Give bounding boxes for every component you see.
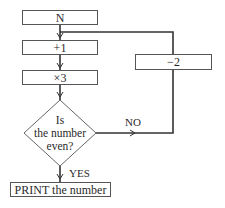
minus-two-box: −2: [135, 54, 212, 70]
add-one-label: +1: [54, 42, 67, 54]
add-one-box: +1: [22, 40, 98, 55]
minus-two-label: −2: [167, 56, 180, 68]
decision-line-2: the number: [24, 127, 96, 140]
flowchart-connectors: [0, 0, 225, 208]
decision-text: Is the number even?: [24, 114, 96, 153]
start-label: N: [56, 12, 65, 24]
decision-line-1: Is: [24, 114, 96, 127]
times-three-box: ×3: [22, 70, 98, 85]
print-label: PRINT the number: [15, 184, 107, 196]
no-label: NO: [125, 117, 141, 128]
start-box: N: [22, 10, 98, 25]
times-three-label: ×3: [54, 72, 67, 84]
decision-line-3: even?: [24, 140, 96, 153]
print-box: PRINT the number: [10, 182, 111, 197]
yes-label: YES: [69, 168, 90, 179]
